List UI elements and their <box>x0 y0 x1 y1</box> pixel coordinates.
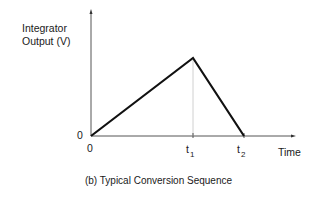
x-axis-label: Time <box>278 146 301 159</box>
y-axis-label: Integrator Output (V) <box>22 22 70 48</box>
t1-label: t1 <box>186 143 194 157</box>
t1-base: t <box>186 143 189 155</box>
t1-subscript: 1 <box>190 150 194 159</box>
integrator-waveform <box>91 58 244 136</box>
figure-caption: (b) Typical Conversion Sequence <box>0 174 317 187</box>
y-axis-label-line2: Output (V) <box>22 35 70 48</box>
t2-subscript: 2 <box>241 150 245 159</box>
x-axis-arrow-icon <box>291 135 296 138</box>
t2-label: t2 <box>237 143 245 157</box>
x-origin-label: 0 <box>87 142 93 155</box>
y-axis-arrow-icon <box>90 9 93 14</box>
t2-base: t <box>237 143 240 155</box>
y-origin-label: 0 <box>77 129 83 142</box>
y-axis-label-line1: Integrator <box>22 22 70 35</box>
